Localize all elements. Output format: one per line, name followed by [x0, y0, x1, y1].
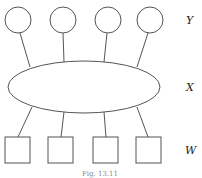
node-w1	[5, 137, 30, 163]
connector-x-w1	[18, 107, 32, 137]
figure-caption: Fig. 13.11	[82, 170, 118, 178]
layer-label-x: X	[185, 81, 195, 94]
node-x	[8, 61, 160, 113]
node-y3	[95, 7, 121, 33]
connector-x-w4	[137, 107, 148, 137]
node-y1	[5, 7, 31, 33]
connector-y2-x	[63, 33, 64, 62]
connector-y3-x	[104, 33, 107, 62]
connector-y1-x	[20, 33, 30, 67]
node-y2	[50, 7, 76, 33]
diagram-canvas: Y X W Fig. 13.11	[0, 0, 202, 178]
node-w4	[136, 137, 161, 163]
node-w2	[48, 137, 73, 163]
layer-label-w: W	[185, 144, 198, 157]
node-w3	[93, 137, 118, 163]
connector-x-w3	[104, 112, 106, 137]
connector-y4-x	[137, 33, 148, 67]
connector-x-w2	[61, 112, 64, 137]
node-y4	[137, 7, 163, 33]
layer-label-y: Y	[186, 14, 195, 27]
